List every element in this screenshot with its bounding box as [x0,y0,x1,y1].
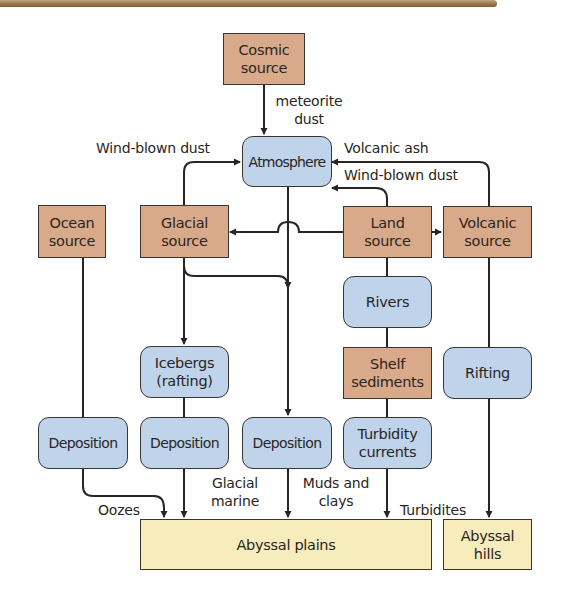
node-volcanic-line2: source [464,232,510,250]
edge-glacial-atmosphere [184,162,240,205]
label-oozes: Oozes [98,501,140,519]
node-abyssal-hills-line2: hills [474,545,501,563]
node-cosmic-source: Cosmic source [223,33,305,85]
node-shelf-sediments: Shelf sediments [343,347,432,399]
node-deposition-ocean-label: Deposition [49,434,118,452]
label-wind-blown-dust-left: Wind-blown dust [96,139,210,157]
edge-glacial-deposition [184,258,288,288]
node-volcanic-line1: Volcanic [459,214,516,232]
node-atmosphere: Atmosphere [242,136,332,187]
node-abyssal-plains-label: Abyssal plains [236,536,335,554]
node-abyssal-hills: Abyssal hills [443,519,532,570]
node-rivers-label: Rivers [366,293,409,311]
node-deposition-atmos-label: Deposition [253,434,322,452]
label-meteorite-dust: meteorite dust [274,92,344,128]
node-atmosphere-label: Atmosphere [249,153,326,171]
node-abyssal-plains: Abyssal plains [140,519,432,570]
node-turbidity-currents: Turbidity currents [343,417,432,469]
node-rifting: Rifting [443,347,532,399]
node-rifting-label: Rifting [465,364,510,382]
edge-land-glacial [230,222,343,232]
node-turbidity-line2: currents [359,443,416,461]
node-rivers: Rivers [343,276,432,328]
label-clays: clays [296,492,376,510]
node-land-line2: source [364,232,410,250]
node-cosmic-line2: source [241,59,287,77]
node-land-line1: Land [370,214,404,232]
node-icebergs-line2: (rafting) [156,372,212,390]
node-deposition-atmos: Deposition [242,417,332,469]
label-glacial-marine: Glacial marine [205,474,265,510]
node-ocean-line1: Ocean [50,214,95,232]
node-shelf-line1: Shelf [370,355,405,373]
edge-land-atmosphere [332,188,387,206]
node-shelf-line2: sediments [351,373,423,391]
label-muds-and: Muds and [296,474,376,492]
node-cosmic-line1: Cosmic [239,41,290,59]
label-glacial: Glacial [205,474,265,492]
node-glacial-source: Glacial source [140,205,229,258]
node-volcanic-source: Volcanic source [443,206,532,258]
node-icebergs-line1: Icebergs [155,354,214,372]
label-meteorite: meteorite [274,92,344,110]
label-wind-blown-dust-right: Wind-blown dust [344,166,458,184]
node-ocean-source: Ocean source [38,205,106,258]
node-deposition-glacial-label: Deposition [150,434,219,452]
node-glacial-line1: Glacial [161,214,208,232]
node-deposition-ocean: Deposition [38,417,128,469]
node-turbidity-line1: Turbidity [358,425,418,443]
label-volcanic-ash: Volcanic ash [344,139,428,157]
node-glacial-line2: source [161,232,207,250]
node-deposition-glacial: Deposition [140,417,229,469]
label-marine: marine [205,492,265,510]
label-turbidites: Turbidites [400,501,466,519]
label-dust: dust [274,110,344,128]
node-abyssal-hills-line1: Abyssal [461,527,515,545]
node-ocean-line2: source [49,232,95,250]
label-muds-and-clays: Muds and clays [296,474,376,510]
node-icebergs: Icebergs (rafting) [140,346,229,398]
node-land-source: Land source [343,206,432,258]
